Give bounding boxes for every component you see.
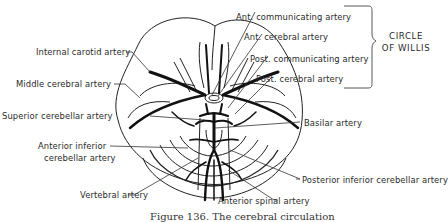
label-posterior-inferior-cerebellar-artery: Posterior inferior cerebellar artery bbox=[302, 175, 448, 185]
label-anterior-spinal-artery: Anterior spinal artery bbox=[218, 196, 310, 206]
circle-of-willis-group-label: CIRCLE OF WILLIS bbox=[378, 30, 434, 54]
label-vertebral-artery: Vertebral artery bbox=[80, 190, 148, 200]
label-anterior-inferior-cerebellar-artery-2: cerebellar artery bbox=[44, 153, 116, 163]
label-internal-carotid-artery: Internal carotid artery bbox=[36, 47, 130, 57]
label-superior-cerebellar-artery: Superior cerebellar artery bbox=[2, 111, 113, 121]
label-post-cerebral-artery: Post. cerebral artery bbox=[256, 74, 343, 84]
label-post-communicating-artery: Post. communicating artery bbox=[250, 54, 368, 64]
figure-caption: Figure 136. The cerebral circulation bbox=[150, 211, 335, 222]
label-anterior-inferior-cerebellar-artery-1: Anterior inferior bbox=[38, 141, 106, 151]
circle-of-willis-line1: CIRCLE bbox=[378, 30, 434, 42]
label-ant-communicating-artery: Ant. communicating artery bbox=[236, 12, 351, 22]
label-basilar-artery: Basilar artery bbox=[304, 118, 362, 128]
label-ant-cerebral-artery: Ant. cerebral artery bbox=[244, 32, 328, 42]
circle-of-willis-line2: OF WILLIS bbox=[378, 42, 434, 54]
label-middle-cerebral-artery: Middle cerebral artery bbox=[16, 79, 111, 89]
